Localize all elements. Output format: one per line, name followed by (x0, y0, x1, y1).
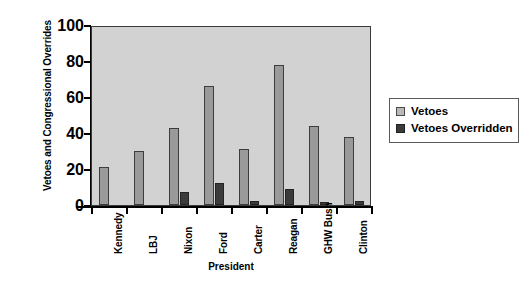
bar-vetoes (239, 149, 249, 205)
y-tick-label: 20 (44, 162, 84, 178)
x-category-label: Kennedy (113, 212, 124, 254)
bar-vetoes-overridden (250, 201, 259, 205)
y-tick-label: 100 (44, 18, 84, 34)
bar-vetoes-overridden (285, 189, 294, 205)
x-tick-mark (371, 208, 373, 214)
x-tick-mark (336, 208, 338, 214)
y-tick-label: 60 (44, 90, 84, 106)
x-axis-title: President (91, 261, 371, 272)
x-category-label: Carter (253, 225, 264, 254)
plot-area (91, 26, 371, 206)
legend-label: Vetoes (411, 106, 448, 118)
bars-layer (92, 27, 370, 205)
x-category-label: Reagan (288, 218, 299, 254)
chart-legend: Vetoes Vetoes Overridden (389, 98, 519, 143)
dark-gray-square-icon (396, 124, 405, 133)
bar-vetoes-overridden (180, 192, 189, 205)
x-tick-mark (266, 208, 268, 214)
x-category-label: GHW Bush (323, 203, 334, 254)
bar-vetoes (274, 65, 284, 205)
y-tick-labels: 020406080100 (42, 0, 84, 285)
y-tick-mark (84, 169, 91, 171)
legend-label: Vetoes Overridden (411, 123, 513, 135)
x-tick-mark (301, 208, 303, 214)
x-tick-mark (231, 208, 233, 214)
bar-vetoes (169, 128, 179, 205)
y-tick-label: 40 (44, 126, 84, 142)
bar-vetoes (344, 137, 354, 205)
x-tick-mark (91, 208, 93, 214)
x-category-label: Ford (218, 232, 229, 254)
bar-vetoes (204, 86, 214, 205)
x-category-label: Nixon (183, 227, 194, 254)
bar-vetoes (99, 167, 109, 205)
y-tick-mark (84, 133, 91, 135)
veto-bar-chart: Vetoes and Congressional Overrides 02040… (0, 0, 531, 285)
y-tick-mark (84, 205, 91, 207)
x-tick-mark (196, 208, 198, 214)
x-category-label: LBJ (148, 235, 159, 254)
x-tick-mark (161, 208, 163, 214)
y-tick-mark (84, 25, 91, 27)
legend-item-vetoes: Vetoes (396, 103, 513, 120)
bar-vetoes (134, 151, 144, 205)
x-category-label: Clinton (358, 220, 369, 254)
bar-vetoes-overridden (215, 183, 224, 205)
bar-vetoes-overridden (355, 201, 364, 205)
legend-item-vetoes-overridden: Vetoes Overridden (396, 120, 513, 137)
bar-vetoes (309, 126, 319, 205)
x-tick-mark (126, 208, 128, 214)
y-tick-mark (84, 61, 91, 63)
y-tick-label: 80 (44, 54, 84, 70)
y-tick-mark (84, 97, 91, 99)
light-gray-square-icon (396, 107, 405, 116)
